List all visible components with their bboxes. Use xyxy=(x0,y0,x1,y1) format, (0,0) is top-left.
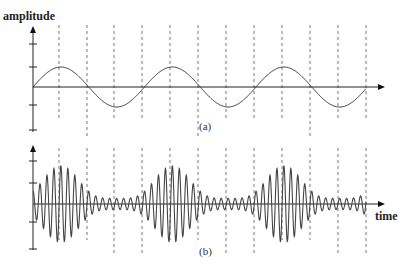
y-axis-label: amplitude xyxy=(3,9,55,24)
modulation-diagram xyxy=(0,0,409,273)
dashed-gridlines-a xyxy=(59,25,366,138)
x-axis-label: time xyxy=(375,209,398,224)
panel-b-label: (b) xyxy=(199,245,212,257)
axes-panel-a xyxy=(29,26,385,132)
panel-a-label: (a) xyxy=(199,120,211,132)
